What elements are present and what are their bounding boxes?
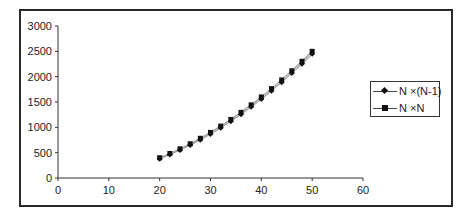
y-tick-label: 0 <box>46 172 52 184</box>
diamond-marker-icon <box>373 86 397 96</box>
data-point <box>239 110 244 115</box>
y-tick-label: 1500 <box>28 96 52 108</box>
x-tick-label: 20 <box>154 184 166 196</box>
y-tick-label: 2500 <box>28 45 52 57</box>
data-point <box>279 77 284 82</box>
data-point <box>269 86 274 91</box>
legend-label: N ×(N-1) <box>399 85 441 97</box>
data-point <box>300 59 305 64</box>
y-tick-label: 2000 <box>28 71 52 83</box>
series-layer <box>157 49 315 162</box>
data-point <box>167 151 172 156</box>
x-tick-label: 50 <box>306 184 318 196</box>
x-tick-label: 0 <box>55 184 61 196</box>
y-tick-label: 500 <box>34 147 52 159</box>
data-point <box>208 130 213 135</box>
data-point <box>249 102 254 107</box>
legend-item-n-times-n-minus-1: N ×(N-1) <box>373 83 441 99</box>
square-marker-icon <box>373 103 397 113</box>
data-point <box>157 155 162 160</box>
legend: N ×(N-1) N ×N <box>370 81 440 117</box>
legend-item-n-times-n: N ×N <box>373 100 424 116</box>
data-point <box>218 124 223 129</box>
y-tick-label: 1000 <box>28 121 52 133</box>
data-point <box>228 117 233 122</box>
data-point <box>310 49 315 54</box>
data-point <box>198 136 203 141</box>
data-point <box>178 146 183 151</box>
axes: 0500100015002000250030000102030405060 <box>28 20 370 196</box>
legend-label: N ×N <box>399 102 424 114</box>
data-point <box>289 68 294 73</box>
data-point <box>259 94 264 99</box>
x-tick-label: 10 <box>103 184 115 196</box>
data-point <box>188 141 193 146</box>
x-tick-label: 40 <box>255 184 267 196</box>
x-tick-label: 60 <box>357 184 369 196</box>
series-line <box>160 54 313 159</box>
y-tick-label: 3000 <box>28 20 52 32</box>
x-tick-label: 30 <box>204 184 216 196</box>
series-line <box>160 51 313 157</box>
